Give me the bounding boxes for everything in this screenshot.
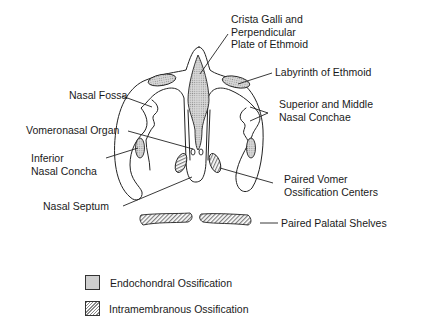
labyrinth-left	[147, 72, 176, 88]
label-nasal-fossa: Nasal Fossa	[69, 89, 127, 102]
label-crista-galli: Crista Galli and Perpendicular Plate of …	[231, 13, 308, 51]
legend-swatch-endochondral	[85, 275, 100, 290]
label-paired-palatal-shelves: Paired Palatal Shelves	[281, 217, 387, 230]
crista-galli-shape	[188, 55, 209, 150]
labyrinth-right	[221, 74, 251, 91]
label-inferior-nasal-concha: Inferior Nasal Concha	[31, 152, 97, 177]
leader-lines	[106, 34, 278, 223]
palatal-shelf-right	[200, 214, 251, 225]
label-vomeronasal-organ: Vomeronasal Organ	[26, 124, 119, 137]
label-paired-vomer-centers: Paired Vomer Ossification Centers	[284, 173, 378, 198]
label-nasal-septum: Nasal Septum	[43, 200, 109, 213]
legend-swatch-intramembranous	[85, 301, 100, 316]
legend-label-endochondral: Endochondral Ossification	[110, 277, 232, 290]
vomeronasal-organ-right	[199, 149, 203, 155]
vomeronasal-organ-left	[191, 149, 195, 155]
legend-label-intramembranous: Intramembranous Ossification	[109, 303, 248, 316]
inferior-concha-right	[247, 138, 256, 158]
label-labyrinth-ethmoid: Labyrinth of Ethmoid	[275, 66, 371, 79]
palatal-shelf-left	[140, 213, 192, 225]
label-superior-middle-conchae: Superior and Middle Nasal Conchae	[279, 98, 373, 123]
vomer-center-right	[207, 152, 223, 174]
